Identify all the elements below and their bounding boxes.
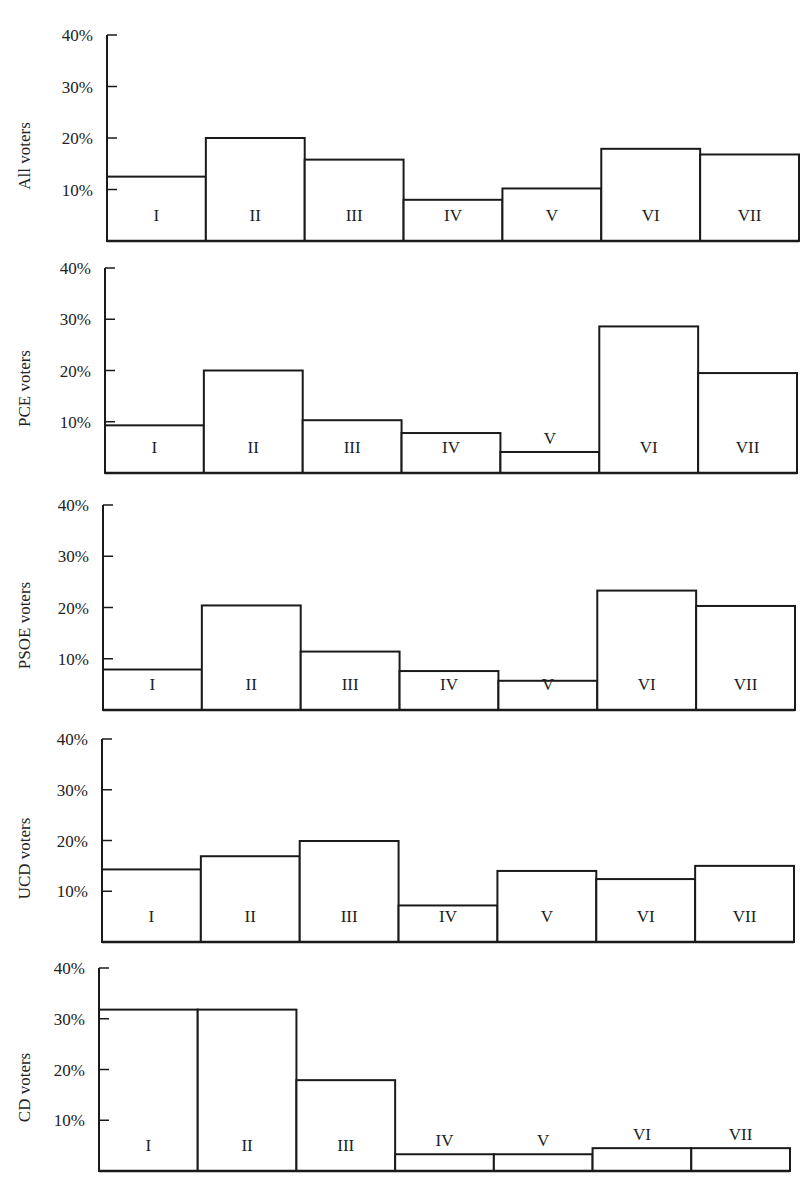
y-tick-label: 10% (60, 413, 91, 432)
y-axis-title: CD voters (15, 1053, 34, 1122)
panel-ucd-voters: IIIIIIIVVVIVII10%20%30%40%UCD voters (15, 730, 794, 942)
bar-ii (202, 605, 301, 710)
bar-ii (204, 371, 303, 474)
y-tick-label: 40% (62, 26, 93, 45)
bar-i (102, 869, 201, 942)
bar-vii (698, 373, 797, 473)
bar-label: IV (442, 438, 461, 457)
y-tick-label: 10% (54, 1111, 85, 1130)
y-axis-title: UCD voters (15, 818, 34, 900)
panel-all-voters: IIIIIIIVVVIVII10%20%30%40%All voters (15, 26, 799, 241)
bar-label: VI (642, 206, 660, 225)
bar-v (494, 1154, 593, 1171)
y-tick-label: 30% (60, 310, 91, 329)
y-tick-label: 40% (58, 496, 89, 515)
bar-vi (601, 149, 700, 241)
y-axis-title: PSOE voters (15, 582, 34, 669)
bar-vii (691, 1148, 790, 1171)
bar-label: VII (733, 907, 757, 926)
bar-label: VII (729, 1125, 753, 1144)
bar-label: II (248, 438, 260, 457)
y-axis-title: All voters (15, 122, 34, 190)
y-tick-label: 40% (54, 959, 85, 978)
bar-iii (296, 1080, 395, 1171)
bar-label: III (342, 675, 359, 694)
bar-label: VII (736, 438, 760, 457)
y-tick-label: 30% (62, 78, 93, 97)
bar-label: IV (440, 675, 459, 694)
chart-canvas: IIIIIIIVVVIVII10%20%30%40%All votersIIII… (0, 0, 812, 1197)
bar-label: V (546, 206, 559, 225)
bar-vii (696, 606, 795, 710)
bar-label: V (537, 1131, 550, 1150)
y-tick-label: 30% (57, 781, 88, 800)
bar-v (500, 452, 599, 473)
bar-label: III (346, 206, 363, 225)
bar-label: IV (439, 907, 458, 926)
bar-label: VI (637, 907, 655, 926)
y-tick-label: 10% (62, 181, 93, 200)
y-tick-label: 20% (57, 832, 88, 851)
y-axis-title: PCE voters (15, 350, 34, 427)
bar-label: II (250, 206, 262, 225)
y-tick-label: 40% (60, 259, 91, 278)
bar-label: VI (640, 438, 658, 457)
y-tick-label: 20% (62, 129, 93, 148)
bar-iii (300, 841, 399, 942)
y-tick-label: 40% (57, 730, 88, 749)
bar-vi (593, 1148, 692, 1171)
panel-cd-voters: IIIIIIIVVVIVII10%20%30%40%CD voters (15, 959, 790, 1171)
bar-label: VI (638, 675, 656, 694)
bar-label: III (344, 438, 361, 457)
bar-label: II (245, 907, 257, 926)
y-tick-label: 10% (58, 650, 89, 669)
bar-iv (395, 1154, 494, 1171)
bar-vii (695, 866, 794, 942)
bar-label: V (541, 907, 554, 926)
y-tick-label: 30% (58, 547, 89, 566)
bar-label: I (150, 675, 156, 694)
bar-ii (206, 138, 305, 241)
y-tick-label: 10% (57, 882, 88, 901)
y-tick-label: 20% (58, 599, 89, 618)
bar-label: II (241, 1136, 253, 1155)
bar-label: V (544, 429, 557, 448)
bar-iii (305, 160, 404, 241)
bar-label: I (154, 206, 160, 225)
bar-label: VII (738, 206, 762, 225)
panel-psoe-voters: IIIIIIIVVVIVII10%20%30%40%PSOE voters (15, 496, 795, 710)
bar-label: III (341, 907, 358, 926)
bar-label: VI (633, 1125, 651, 1144)
bar-label: IV (444, 206, 463, 225)
bar-label: I (152, 438, 158, 457)
panel-pce-voters: IIIIIIIVVVIVII10%20%30%40%PCE voters (15, 259, 797, 473)
y-tick-label: 20% (54, 1061, 85, 1080)
bar-label: IV (436, 1131, 455, 1150)
bar-label: I (149, 907, 155, 926)
bar-label: V (542, 675, 555, 694)
bar-label: II (246, 675, 258, 694)
bar-ii (201, 856, 300, 942)
bar-label: VII (734, 675, 758, 694)
bar-label: III (337, 1136, 354, 1155)
bar-label: I (146, 1136, 152, 1155)
voter-distribution-figure: IIIIIIIVVVIVII10%20%30%40%All votersIIII… (0, 0, 812, 1197)
y-tick-label: 20% (60, 362, 91, 381)
bar-vii (700, 154, 799, 241)
y-tick-label: 30% (54, 1010, 85, 1029)
